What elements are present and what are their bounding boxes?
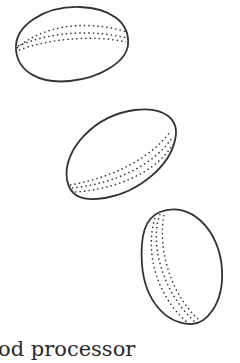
caption-text: od processor xyxy=(0,336,135,362)
seed-middle-icon xyxy=(66,109,175,199)
seed-bottom-icon xyxy=(142,209,223,324)
seed-top-icon xyxy=(16,7,128,81)
seed-illustration xyxy=(0,0,240,335)
